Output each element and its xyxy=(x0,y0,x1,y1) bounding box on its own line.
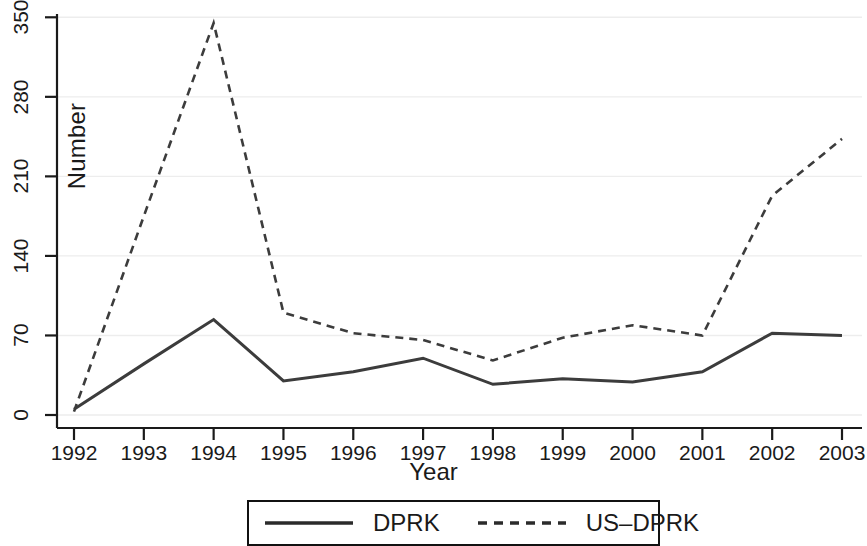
axis-lines xyxy=(57,14,862,428)
x-tick-label: 1998 xyxy=(458,441,528,465)
y-tick-label: 140 xyxy=(9,235,33,277)
x-tick-label: 1992 xyxy=(39,441,109,465)
y-tick-label: 70 xyxy=(9,314,33,356)
series-line-dprk xyxy=(74,320,842,410)
y-tick-label: 210 xyxy=(9,155,33,197)
x-tick-label: 1995 xyxy=(248,441,318,465)
x-tick-label: 1993 xyxy=(109,441,179,465)
y-axis-ticks xyxy=(45,17,57,415)
y-tick-label: 350 xyxy=(9,0,33,38)
gridlines xyxy=(57,17,862,415)
x-tick-label: 2000 xyxy=(598,441,668,465)
x-tick-label: 2003 xyxy=(807,441,867,465)
legend-label-us-dprk: US–DPRK xyxy=(586,509,699,537)
x-tick-label: 1996 xyxy=(318,441,388,465)
legend-item-us-dprk: US–DPRK xyxy=(476,509,699,537)
legend-swatch-dashed xyxy=(476,516,568,530)
y-tick-label: 280 xyxy=(9,76,33,118)
x-tick-label: 1997 xyxy=(388,441,458,465)
x-tick-label: 1999 xyxy=(528,441,598,465)
x-tick-label: 1994 xyxy=(179,441,249,465)
legend-label-dprk: DPRK xyxy=(373,509,440,537)
y-tick-label: 0 xyxy=(9,394,33,436)
series-line-us-dprk xyxy=(74,23,842,412)
x-tick-label: 2002 xyxy=(737,441,807,465)
data-series xyxy=(74,23,842,412)
y-axis-title: Number xyxy=(63,66,91,226)
x-tick-label: 2001 xyxy=(667,441,737,465)
x-axis-ticks xyxy=(74,428,842,440)
legend-item-dprk: DPRK xyxy=(263,509,440,537)
chart-figure: Number Year 070140210280350 199219931994… xyxy=(0,0,867,546)
chart-legend: DPRK US–DPRK xyxy=(247,500,660,546)
legend-swatch-solid xyxy=(263,516,355,530)
